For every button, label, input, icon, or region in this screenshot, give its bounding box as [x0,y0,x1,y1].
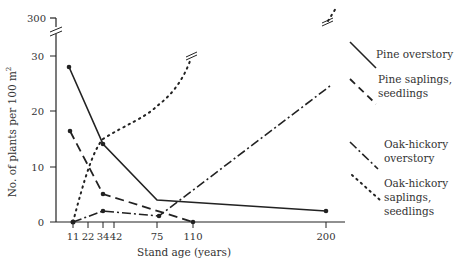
y-tick-30: 30 [31,51,44,62]
x-tick-200: 200 [316,231,335,242]
y-tick-10: 10 [31,162,44,173]
legend-oak-overstory: Oak-hickory overstory [350,138,448,169]
svg-text:Pine saplings,: Pine saplings, [378,73,452,85]
legend-pine-saplings: Pine saplings, seedlings [350,73,452,104]
y-axis-label: No. of plants per 100 m2 [5,67,18,198]
x-tick-110: 110 [183,231,202,242]
svg-text:Pine overstory: Pine overstory [376,48,453,60]
svg-text:No. of plants per 100 m2: No. of plants per 100 m2 [5,67,18,198]
y-tick-20: 20 [31,106,44,117]
legend-pine-overstory: Pine overstory [350,42,453,68]
x-tick-22: 22 [82,231,95,242]
chart: 0 10 20 30 300 No. of plants per 100 m2 … [0,0,454,269]
svg-text:Oak-hickory: Oak-hickory [384,138,448,150]
x-tick-42: 42 [110,231,123,242]
series-oak-saplings [73,8,336,222]
y-tick-0: 0 [38,217,44,228]
legend-oak-saplings: Oak-hickory saplings, seedlings [352,175,448,217]
svg-text:seedlings: seedlings [384,205,434,217]
x-axis: 11 22 34 42 75 110 200 Stand age (years) [56,222,345,258]
x-tick-75: 75 [151,231,164,242]
x-tick-11: 11 [67,231,80,242]
y-axis: 0 10 20 30 300 [27,13,62,228]
legend: Pine overstory Pine saplings, seedlings … [350,42,453,217]
svg-text:saplings,: saplings, [384,191,431,203]
svg-text:overstory: overstory [384,152,434,164]
series-pine-overstory [67,65,329,214]
svg-text:seedlings: seedlings [378,87,428,99]
x-tick-34: 34 [97,231,110,242]
x-axis-label: Stand age (years) [137,246,231,258]
y-tick-300: 300 [27,13,46,24]
series-oak-overstory [71,86,331,225]
svg-text:Oak-hickory: Oak-hickory [384,177,448,189]
